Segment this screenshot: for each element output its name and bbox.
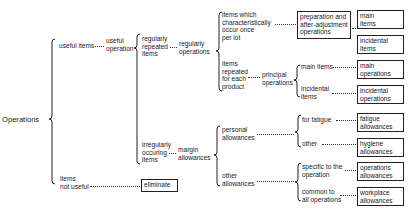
connector bbox=[333, 67, 356, 68]
items-once-per-lot: items which characteristically occur onc… bbox=[222, 11, 271, 41]
items-repeated-each-product: items repeated for each product bbox=[222, 60, 248, 90]
main-items-label: main items bbox=[301, 63, 333, 71]
margin-allowances: margin allowances bbox=[178, 146, 211, 161]
connector bbox=[275, 24, 296, 25]
other: other bbox=[302, 140, 317, 148]
incidental-operations-box: incidental operations bbox=[357, 85, 404, 104]
connector bbox=[352, 28, 356, 29]
other-allowances: other allowances bbox=[222, 172, 255, 187]
connector bbox=[95, 46, 104, 47]
incidental-items-box: incidental items bbox=[357, 35, 404, 54]
personal-allowances: personal allowances bbox=[222, 126, 255, 141]
useful-items: useful items bbox=[59, 42, 94, 50]
main-items-box: main items bbox=[357, 10, 404, 29]
connector bbox=[169, 153, 176, 154]
fatigue-allowances-box: fatigue allowances bbox=[357, 113, 404, 132]
preparation-box: preparation and after-adjustment operati… bbox=[297, 11, 351, 39]
hygiene-allowances-box: hygiene allowances bbox=[357, 138, 404, 157]
connector bbox=[322, 144, 356, 145]
bracket-useful-operation bbox=[134, 33, 142, 168]
eliminate-box: eliminate bbox=[141, 179, 178, 192]
items-not-useful: items not useful bbox=[60, 175, 89, 190]
specific-to-operation: specific to the operation bbox=[302, 163, 342, 178]
connector bbox=[90, 186, 140, 187]
connector bbox=[345, 170, 356, 171]
connector bbox=[257, 134, 294, 135]
connector bbox=[257, 181, 294, 182]
for-fatigue: for fatigue bbox=[302, 116, 331, 124]
connector bbox=[340, 195, 356, 196]
useful-operation: useful operation bbox=[106, 37, 134, 52]
regularly-operations: regularly operations bbox=[179, 40, 210, 55]
incidental-items-label: incidental items bbox=[301, 85, 329, 100]
main-operations-box: main operations bbox=[357, 60, 404, 79]
principal-operations: principal operations bbox=[262, 71, 293, 86]
connector bbox=[332, 93, 356, 94]
workplace-allowances-box: workplace allowances bbox=[357, 187, 404, 206]
bracket-operations bbox=[49, 38, 57, 188]
connector bbox=[336, 120, 356, 121]
connector bbox=[170, 47, 177, 48]
bracket-margin-allowances bbox=[214, 125, 222, 189]
regularly-repeated-items: regularly repeated items bbox=[142, 35, 168, 58]
operations-allowances-box: operations allowances bbox=[357, 162, 404, 181]
irregularly-occuring-items: irregularly occuring items bbox=[142, 141, 171, 164]
connector bbox=[248, 77, 260, 78]
common-to-all: common to all operations bbox=[302, 188, 341, 203]
root-operations: Operations bbox=[2, 116, 39, 124]
